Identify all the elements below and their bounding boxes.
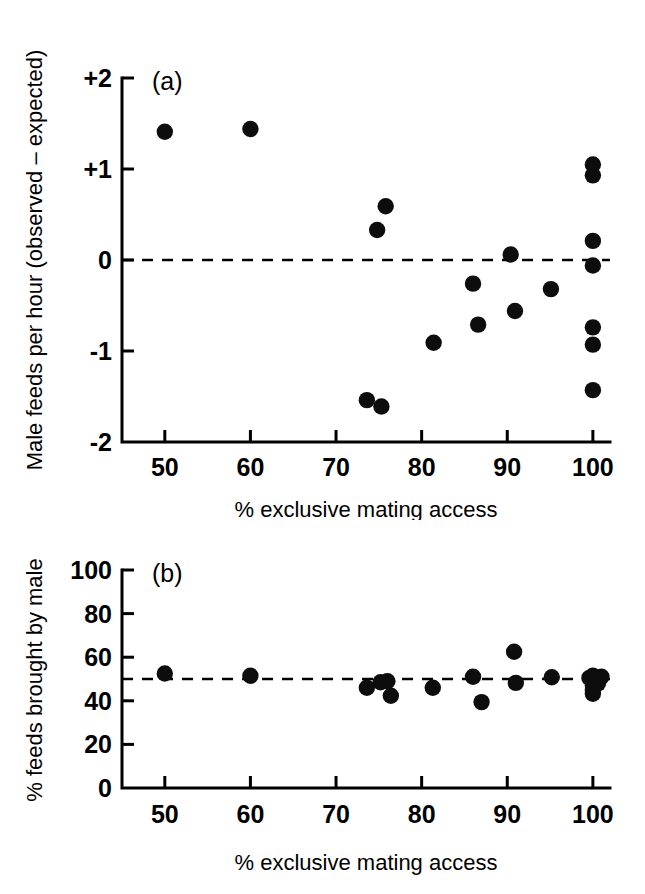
data-point — [425, 680, 441, 696]
data-point — [470, 316, 486, 332]
data-point — [473, 694, 489, 710]
data-point — [373, 398, 389, 414]
x-axis-tick-label: 60 — [237, 800, 265, 828]
x-axis-title: % exclusive mating access — [235, 497, 498, 520]
y-axis-tick-label: 100 — [70, 556, 112, 584]
panel-b: 0204060801005060708090100(b)% exclusive … — [0, 520, 645, 894]
data-point — [508, 675, 524, 691]
data-point — [543, 281, 559, 297]
figure-container: -2-10+1+25060708090100(a)% exclusive mat… — [0, 0, 645, 894]
data-point — [506, 644, 522, 660]
y-axis-tick-label: +2 — [83, 64, 112, 92]
data-point — [157, 665, 173, 681]
data-point — [585, 319, 601, 335]
data-point — [157, 123, 173, 139]
y-axis-tick-label: -2 — [90, 428, 112, 456]
data-point — [377, 198, 393, 214]
panel-label: (b) — [152, 559, 183, 587]
x-axis-tick-label: 90 — [493, 453, 521, 481]
data-point — [593, 669, 609, 685]
data-point — [369, 222, 385, 238]
y-axis-tick-label: 80 — [84, 600, 112, 628]
x-axis-tick-label: 70 — [322, 453, 350, 481]
data-point — [359, 392, 375, 408]
y-axis-tick-label: 40 — [84, 687, 112, 715]
y-axis-tick-label: 0 — [98, 246, 112, 274]
data-point — [585, 382, 601, 398]
y-axis-tick-label: -1 — [90, 337, 112, 365]
data-point — [425, 335, 441, 351]
data-point — [465, 669, 481, 685]
panel-label: (a) — [152, 67, 183, 95]
data-point — [507, 303, 523, 319]
data-point — [379, 673, 395, 689]
data-point — [242, 668, 258, 684]
x-axis-tick-label: 50 — [151, 800, 179, 828]
panel-a-plot: -2-10+1+25060708090100(a)% exclusive mat… — [0, 0, 645, 520]
x-axis-tick-label: 60 — [237, 453, 265, 481]
x-axis-title: % exclusive mating access — [235, 850, 498, 875]
data-point — [585, 336, 601, 352]
data-point — [383, 688, 399, 704]
y-axis-tick-label: 60 — [84, 643, 112, 671]
panel-a: -2-10+1+25060708090100(a)% exclusive mat… — [0, 0, 645, 520]
data-point — [465, 275, 481, 291]
x-axis-tick-label: 100 — [572, 800, 614, 828]
x-axis-tick-label: 90 — [493, 800, 521, 828]
panel-b-plot: 0204060801005060708090100(b)% exclusive … — [0, 520, 645, 894]
x-axis-tick-label: 70 — [322, 800, 350, 828]
x-axis-tick-label: 100 — [572, 453, 614, 481]
x-axis-tick-label: 80 — [408, 800, 436, 828]
data-point — [585, 233, 601, 249]
data-point — [585, 167, 601, 183]
y-axis-title: Male feeds per hour (observed – expected… — [22, 50, 47, 471]
x-axis-tick-label: 80 — [408, 453, 436, 481]
y-axis-title: % feeds brought by male — [22, 558, 47, 801]
y-axis-tick-label: +1 — [83, 155, 112, 183]
y-axis-tick-label: 0 — [98, 774, 112, 802]
data-point — [544, 669, 560, 685]
y-axis-tick-label: 20 — [84, 730, 112, 758]
data-point — [502, 246, 518, 262]
x-axis-tick-label: 50 — [151, 453, 179, 481]
data-point — [242, 121, 258, 137]
data-point — [585, 257, 601, 273]
